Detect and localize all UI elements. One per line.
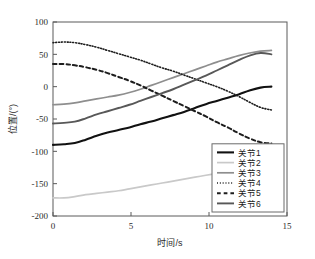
x-tick-label: 15 xyxy=(283,221,293,231)
legend-label-3: 关节3 xyxy=(238,168,261,178)
line-chart: 051015 100500-50-100-150-200 关节1关节2关节3关节… xyxy=(0,0,315,259)
legend-label-5: 关节5 xyxy=(238,188,261,198)
legend-label-1: 关节1 xyxy=(238,148,261,158)
y-tick-label: -50 xyxy=(36,114,48,124)
legend-label-4: 关节4 xyxy=(238,178,261,188)
legend-label-2: 关节2 xyxy=(238,158,261,168)
x-tick-label: 5 xyxy=(129,221,134,231)
x-tick-label: 0 xyxy=(51,221,56,231)
y-tick-label: 50 xyxy=(39,50,49,60)
legend-label-6: 关节6 xyxy=(238,199,261,209)
x-tick-label: 10 xyxy=(205,221,215,231)
y-tick-label: -100 xyxy=(32,147,49,157)
x-axis-title: 时间/s xyxy=(157,237,183,248)
chart-figure: 051015 100500-50-100-150-200 关节1关节2关节3关节… xyxy=(0,0,315,259)
x-axis-ticks: 051015 xyxy=(51,212,292,231)
y-axis-title: 位置/(°) xyxy=(7,104,18,134)
y-tick-label: -200 xyxy=(32,211,49,221)
series-line-5 xyxy=(53,64,271,144)
series-line-6 xyxy=(53,53,271,124)
y-tick-label: 0 xyxy=(44,82,49,92)
y-tick-label: 100 xyxy=(35,17,49,27)
y-tick-label: -150 xyxy=(32,179,49,189)
series-line-4 xyxy=(53,42,271,110)
chart-legend: 关节1关节2关节3关节4关节5关节6 xyxy=(212,144,284,212)
